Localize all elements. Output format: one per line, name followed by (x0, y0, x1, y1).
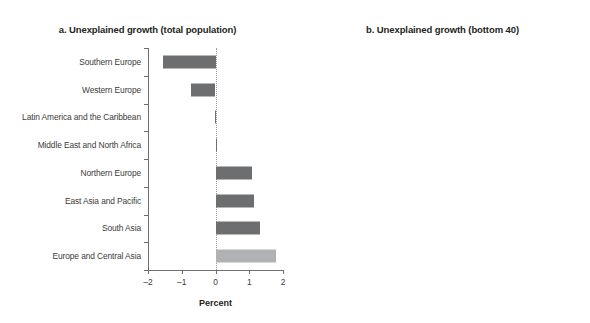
x-axis-tick (283, 270, 284, 274)
bar (215, 111, 216, 124)
category-label: Southern Europe (79, 57, 141, 67)
y-axis-tick (144, 215, 148, 216)
x-axis-tick-label: 0 (213, 277, 218, 287)
chart-panel-a: a. Unexplained growth (total population)… (0, 0, 295, 323)
x-axis-title: Percent (199, 298, 232, 308)
x-axis-tick-label: 1 (247, 277, 252, 287)
bar (163, 55, 215, 68)
y-axis-tick (144, 159, 148, 160)
y-axis-tick (144, 242, 148, 243)
category-label: Northern Europe (81, 168, 141, 178)
bar (216, 194, 255, 207)
zero-reference-line (216, 48, 218, 270)
x-axis-tick-label: –2 (143, 277, 152, 287)
bar (216, 250, 277, 263)
y-axis-tick (144, 104, 148, 105)
category-label: Middle East and North Africa (38, 140, 141, 150)
category-label: South Asia (102, 223, 141, 233)
panel-a-plot-area: –2–1012PercentSouthern EuropeWestern Eur… (148, 48, 283, 270)
category-label: Europe and Central Asia (53, 251, 142, 261)
bar (216, 222, 261, 235)
bar (216, 139, 217, 152)
bar (191, 83, 215, 96)
bar (216, 166, 252, 179)
x-axis-tick (182, 270, 183, 274)
y-axis-line (148, 48, 149, 270)
category-label: East Asia and Pacific (65, 196, 141, 206)
y-axis-tick (144, 187, 148, 188)
x-axis-tick (148, 270, 149, 274)
x-axis-tick-label: –1 (177, 277, 186, 287)
panel-b-title: b. Unexplained growth (bottom 40) (295, 24, 590, 35)
panel-a-title: a. Unexplained growth (total population) (0, 24, 295, 35)
chart-panel-b: b. Unexplained growth (bottom 40) –3–2–1… (295, 0, 590, 323)
y-axis-tick (144, 131, 148, 132)
x-axis-tick (249, 270, 250, 274)
x-axis-tick-label: 2 (281, 277, 286, 287)
y-axis-tick (144, 76, 148, 77)
category-label: Western Europe (82, 85, 141, 95)
y-axis-tick (144, 48, 148, 49)
category-label: Latin America and the Caribbean (22, 112, 141, 122)
x-axis-tick (216, 270, 217, 274)
figure: a. Unexplained growth (total population)… (0, 0, 590, 323)
